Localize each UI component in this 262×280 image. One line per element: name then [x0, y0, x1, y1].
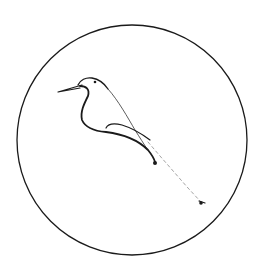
bird-in-circle-icon: [0, 0, 262, 280]
illustration: Minimalist single-line drawing of a bird…: [0, 0, 262, 280]
bird-head: [78, 78, 108, 89]
bird-beak: [58, 85, 82, 92]
bird-eye: [94, 81, 97, 84]
bird-foot-front: [153, 161, 157, 165]
bird-back: [108, 89, 147, 149]
bird-foot-back-dot: [199, 201, 203, 205]
bird-tail-dashed: [148, 142, 201, 202]
